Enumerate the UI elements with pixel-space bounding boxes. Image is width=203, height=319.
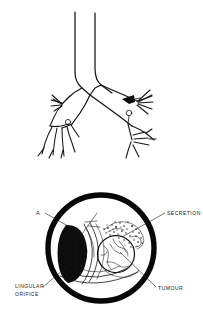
figure-canvas: A SECRETION LINGULAR ORIFICE TUMOUR bbox=[0, 0, 203, 319]
label-lingular-orifice-line1: LINGULAR bbox=[15, 283, 44, 289]
label-lingular-orifice-line2: ORIFICE bbox=[15, 291, 39, 297]
label-secretion: SECRETION bbox=[167, 210, 201, 216]
label-a: A bbox=[36, 210, 40, 216]
medical-figure: A SECRETION LINGULAR ORIFICE TUMOUR bbox=[0, 0, 203, 319]
label-tumour: TUMOUR bbox=[158, 285, 183, 291]
